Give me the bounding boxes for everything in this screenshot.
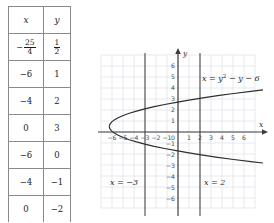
curve-eq-rest: − y − 6 — [226, 74, 259, 83]
y-tick: −3 — [166, 162, 175, 169]
y-tick: −6 — [166, 195, 175, 202]
y-tick: 5 — [171, 73, 175, 80]
fraction: 25 4 — [24, 39, 36, 56]
figure-root: x y − 25 4 — [0, 0, 274, 222]
table-cell-x: −6 — [9, 142, 44, 169]
value-table: x y − 25 4 — [8, 6, 71, 222]
table-cell-x: −4 — [9, 88, 44, 115]
x-axis-label: x — [259, 120, 264, 129]
x-tick: −2 — [151, 134, 160, 141]
table-row: −4 −1 — [9, 169, 71, 196]
table-row: −6 1 — [9, 61, 71, 88]
x-tick: 5 — [231, 134, 235, 141]
table-header-y-label: y — [54, 15, 59, 25]
y-tick: 6 — [171, 62, 175, 69]
table-cell-y: 2 — [44, 88, 71, 115]
x-tick: 4 — [220, 134, 224, 141]
table-row: −4 2 — [9, 88, 71, 115]
x-tick: 6 — [242, 134, 246, 141]
fraction-numerator: 1 — [54, 39, 61, 47]
table-row: 0 −2 — [9, 196, 71, 223]
fraction: 1 2 — [54, 39, 61, 56]
table-row: − 25 4 1 2 — [9, 34, 71, 61]
y-tick: 1 — [171, 117, 175, 124]
table-cell-x: −4 — [9, 169, 44, 196]
x-tick: 2 — [198, 134, 202, 141]
table-cell-y: 0 — [44, 142, 71, 169]
curve-equation-label: x = y2 − y − 6 — [202, 73, 260, 83]
table-cell-x: 0 — [9, 196, 44, 223]
x-tick: −3 — [140, 134, 149, 141]
table-cell-y: −1 — [44, 169, 71, 196]
y-tick: 4 — [171, 84, 175, 91]
x-tick: 1 — [187, 134, 191, 141]
y-tick: 2 — [171, 106, 175, 113]
y-tick: −1 — [166, 140, 175, 147]
table-row: −6 0 — [9, 142, 71, 169]
y-tick: −2 — [166, 151, 175, 158]
y-axis-arrow — [175, 48, 181, 54]
y-axis-label: y — [182, 49, 188, 58]
table-cell-x: 0 — [9, 115, 44, 142]
table-cell-y: 1 — [44, 61, 71, 88]
table-header-row: x y — [9, 7, 71, 34]
table-cell-x: −6 — [9, 61, 44, 88]
table-cell-y: 3 — [44, 115, 71, 142]
table-cell-x: − 25 4 — [9, 34, 44, 61]
graph-svg: y x −6 −5 −4 −3 −2 −1 1 2 3 4 5 6 0 6 — [96, 44, 274, 222]
coordinate-graph: y x −6 −5 −4 −3 −2 −1 1 2 3 4 5 6 0 6 — [96, 44, 274, 222]
label-x-equals-2: x = 2 — [204, 178, 225, 187]
y-tick: 3 — [171, 95, 175, 102]
y-tick: −4 — [166, 173, 175, 180]
x-tick: 3 — [209, 134, 213, 141]
table-cell-y: 1 2 — [44, 34, 71, 61]
value-table-body: x y − 25 4 — [9, 7, 71, 223]
fraction-numerator: 25 — [24, 39, 36, 47]
table-header-x-label: x — [23, 15, 28, 25]
fraction-denominator: 4 — [24, 47, 36, 56]
table-row: 0 3 — [9, 115, 71, 142]
table-cell-y: −2 — [44, 196, 71, 223]
x-tick: −6 — [107, 134, 116, 141]
table-header-x: x — [9, 7, 44, 34]
y-tick: −5 — [166, 184, 175, 191]
fraction-denominator: 2 — [54, 47, 61, 56]
curve-eq-equals: = — [207, 74, 219, 83]
x-axis-arrow — [262, 129, 268, 135]
table-header-y: y — [44, 7, 71, 34]
fraction-sign: − — [16, 43, 23, 52]
label-x-equals-minus-3: x = −3 — [110, 178, 138, 187]
fraction-negative: − 25 4 — [16, 39, 35, 56]
